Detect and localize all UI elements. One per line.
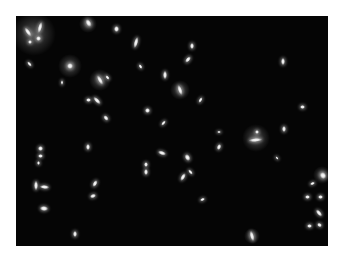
bacterium-cell xyxy=(307,224,312,228)
bacterium-cell xyxy=(309,181,315,186)
bacterium-cell xyxy=(86,144,90,150)
bacterium-cell xyxy=(255,130,259,134)
bacterium-cell xyxy=(163,71,167,79)
bacterium-cell xyxy=(92,179,99,187)
bacterium-cell xyxy=(316,222,322,228)
bacterium-cell xyxy=(197,97,203,104)
bacterium-cell xyxy=(184,55,192,63)
bacterium-cell xyxy=(103,114,110,121)
bacterium-cell xyxy=(305,195,310,199)
bacterium-cell xyxy=(216,143,222,150)
bacterium-cell xyxy=(183,153,191,162)
bacterium-cell xyxy=(281,58,285,65)
bacterium-cell xyxy=(144,169,148,175)
bacterium-cell xyxy=(114,26,119,32)
bacterium-cell xyxy=(179,173,186,182)
bacterium-cell xyxy=(187,169,193,176)
bacterium-cell xyxy=(137,63,142,69)
bacterium-cell xyxy=(217,131,221,133)
bacterium-cell xyxy=(318,195,323,199)
bacterium-cell xyxy=(67,63,73,69)
bacterium-cell xyxy=(145,108,150,113)
bacterium-cell xyxy=(275,156,279,160)
bacterium-cell xyxy=(160,120,166,127)
micrograph-frame xyxy=(16,16,328,246)
bacterium-cell xyxy=(40,205,48,211)
bacterium-cell xyxy=(26,61,32,68)
bacterium-cell xyxy=(300,105,305,109)
bacterium-cell xyxy=(199,197,205,202)
bacterium-cell xyxy=(144,162,148,167)
bacterium-cell xyxy=(61,80,63,85)
bacterium-cell xyxy=(36,36,41,41)
bacterium-cell xyxy=(37,161,40,165)
bacterium-cell xyxy=(38,146,43,151)
bacterium-cell xyxy=(89,193,96,199)
bacterium-cell xyxy=(133,36,140,48)
bacterium-cell xyxy=(38,154,43,158)
bacterium-cell xyxy=(86,98,91,102)
bacterium-cell xyxy=(28,40,32,44)
bacterium-cell xyxy=(39,185,48,190)
bacterium-cell xyxy=(315,209,323,218)
bacterium-cell xyxy=(73,231,77,237)
bacterium-cell xyxy=(34,181,38,190)
bacterium-cell xyxy=(190,43,194,49)
bacterium-cell xyxy=(158,150,167,156)
bacterium-cell xyxy=(282,126,286,132)
bacterium-cell xyxy=(92,95,101,104)
